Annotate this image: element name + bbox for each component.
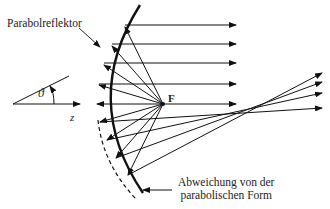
- reflector-curve: [111, 5, 143, 193]
- deviation-label: Abweichung von der parabolischen Form: [178, 176, 274, 202]
- z-axis-label: z: [70, 111, 74, 124]
- reflector-label-pointer: [79, 28, 100, 47]
- diagram-graphics: [0, 0, 330, 209]
- deviation-label-line2: parabolischen Form: [178, 189, 274, 202]
- deviation-dashed-curve: [98, 120, 137, 200]
- focus-label: F: [168, 92, 175, 105]
- angle-indicator: [13, 76, 80, 104]
- parabolic-reflector-diagram: Parabolreflektor F ϑ z Abweichung von de…: [0, 0, 330, 209]
- reflector-label: Parabolreflektor: [7, 17, 82, 30]
- deviated-rays: [100, 73, 322, 175]
- deviation-label-line1: Abweichung von der: [178, 176, 274, 189]
- focus-point: [161, 102, 165, 106]
- theta-label: ϑ: [38, 87, 44, 100]
